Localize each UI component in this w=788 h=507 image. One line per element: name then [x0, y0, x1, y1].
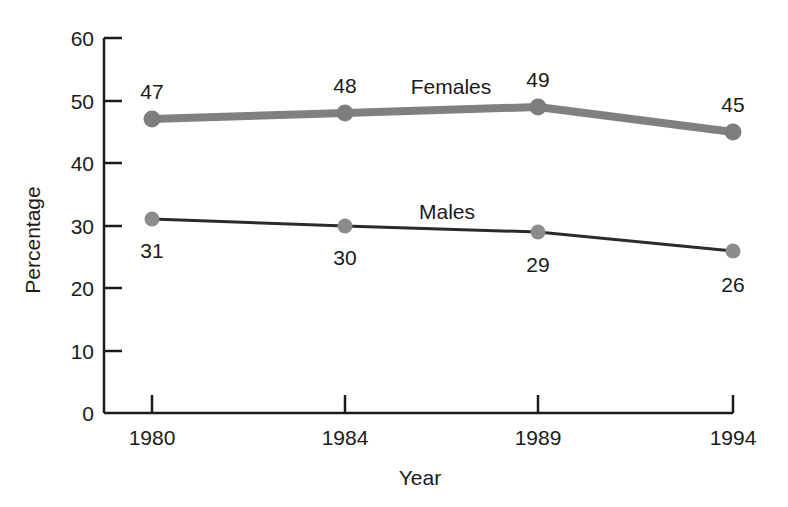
males-label-1980: 31 [140, 239, 163, 262]
y-axis-title: Percentage [21, 186, 44, 293]
females-point-1980 [144, 111, 161, 128]
males-label-1984: 30 [333, 246, 356, 269]
chart-container: 60 50 40 30 20 10 0 1980 1984 1989 1994 … [0, 0, 788, 507]
y-tick-labels: 60 50 40 30 20 10 0 [71, 27, 94, 425]
y-tick-label-10: 10 [71, 340, 94, 363]
females-point-1984 [337, 105, 354, 122]
males-data-labels: 31 30 29 26 [140, 239, 744, 296]
x-tick-label-1994: 1994 [710, 426, 757, 449]
females-label-1984: 48 [333, 74, 356, 97]
y-tick-label-0: 0 [82, 402, 94, 425]
females-point-1994 [725, 124, 742, 141]
males-point-1980 [145, 212, 160, 227]
males-label-1994: 26 [721, 273, 744, 296]
females-label-1989: 49 [526, 68, 549, 91]
x-tick-label-1989: 1989 [515, 426, 562, 449]
y-tick-label-50: 50 [71, 90, 94, 113]
females-label-1980: 47 [140, 80, 163, 103]
x-axis-title: Year [399, 466, 441, 489]
series-label-females: Females [411, 75, 492, 98]
y-tick-label-20: 20 [71, 277, 94, 300]
males-point-1984 [338, 219, 353, 234]
series-females [144, 99, 742, 141]
females-point-1989 [530, 99, 547, 116]
y-tick-label-30: 30 [71, 215, 94, 238]
series-label-males: Males [419, 200, 475, 223]
males-line [152, 219, 733, 251]
males-point-1994 [726, 244, 741, 259]
y-tick-label-40: 40 [71, 152, 94, 175]
females-line [152, 107, 733, 132]
y-tick-label-60: 60 [71, 27, 94, 50]
males-point-1989 [531, 225, 546, 240]
females-label-1994: 45 [721, 93, 744, 116]
line-chart: 60 50 40 30 20 10 0 1980 1984 1989 1994 … [0, 0, 788, 507]
x-tick-label-1984: 1984 [322, 426, 369, 449]
x-tick-label-1980: 1980 [129, 426, 176, 449]
x-tick-labels: 1980 1984 1989 1994 [129, 426, 757, 449]
males-label-1989: 29 [526, 253, 549, 276]
